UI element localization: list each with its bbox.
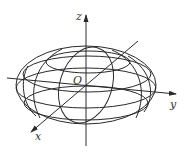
ellipsoid-diagram: z y x O: [0, 0, 188, 159]
origin-label: O: [73, 74, 82, 87]
latitude-ring-upper: [23, 56, 151, 92]
meridian-left: [34, 49, 62, 118]
y-axis-label: y: [169, 98, 177, 111]
x-axis-label: x: [35, 130, 42, 143]
z-axis-label: z: [75, 10, 82, 23]
